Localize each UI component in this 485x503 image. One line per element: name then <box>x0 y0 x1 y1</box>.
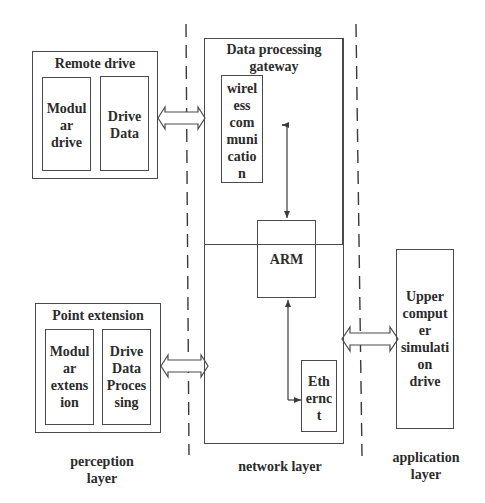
perception-layer-label: perception layer <box>52 453 152 487</box>
modular-extension-label: Modul ar extens ion <box>42 343 97 411</box>
drive-data-processing-label: Drive Data Proces sing <box>99 343 154 411</box>
gateway-title: Data processing gateway <box>204 41 344 75</box>
architecture-diagram: Remote drive Modul ar drive Drive Data P… <box>0 0 485 503</box>
double-arrow-point-gateway <box>161 355 208 377</box>
separator-perception-network <box>186 24 189 455</box>
point-extension-title: Point extension <box>35 307 161 324</box>
upper-computer-label: Upper comput er simulati on drive <box>393 288 457 390</box>
wireless-communication-label: wirel ess com muni catio n <box>216 80 268 182</box>
ethernet-label: Eth ernc t <box>299 373 339 424</box>
drive-data-label: Drive Data <box>100 108 149 142</box>
modular-drive-label: Modul ar drive <box>42 100 91 151</box>
double-arrow-gateway-upper <box>342 327 398 351</box>
separator-network-application <box>356 24 362 456</box>
remote-drive-title: Remote drive <box>32 55 158 72</box>
arm-label: ARM <box>257 251 316 268</box>
network-layer-label: network layer <box>220 458 340 475</box>
double-arrow-remote-gateway <box>158 107 205 129</box>
application-layer-label: application layer <box>376 449 476 483</box>
